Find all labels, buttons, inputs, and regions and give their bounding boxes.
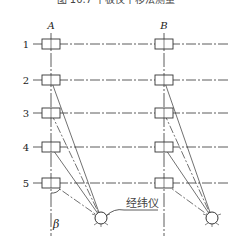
row-label-4: 4: [23, 142, 29, 153]
theodolite-icon: [206, 212, 218, 224]
axis-label-A: A: [46, 20, 54, 31]
row-label-3: 3: [23, 108, 29, 119]
row-label-2: 2: [23, 75, 29, 86]
leader-line: [106, 210, 158, 216]
axis-label-B: B: [159, 20, 167, 31]
theodolites: [92, 212, 221, 227]
theodolite-label: 经纬仪: [126, 197, 159, 210]
row-label-5: 5: [23, 178, 29, 189]
angle-arc: [51, 189, 60, 193]
angle-beta-label: β: [52, 218, 59, 231]
row-label-1: 1: [23, 39, 29, 50]
theodolite-layout-diagram: 图 10.7 平板仪平移法测量 AB12345 经纬仪 β: [0, 0, 233, 246]
figure-caption: 图 10.7 平板仪平移法测量: [57, 0, 176, 5]
theodolite-icon: [95, 212, 107, 224]
column-markers: [42, 39, 173, 188]
